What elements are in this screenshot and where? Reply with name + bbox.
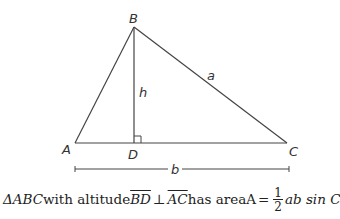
vertex-label-b: B	[129, 11, 138, 26]
caption-has-area: has area	[188, 191, 247, 207]
vertex-label-a: A	[61, 142, 71, 157]
caption-fraction: 1 2	[273, 187, 283, 213]
side-label-b: b	[171, 162, 179, 177]
caption: ΔABC with altitude BD ⊥ AC has area A = …	[0, 186, 330, 212]
vertex-label-c: C	[289, 144, 299, 159]
fraction-numerator: 1	[273, 187, 283, 200]
caption-segment-ac: AC	[168, 191, 188, 207]
vertex-label-d: D	[128, 147, 138, 162]
fraction-denominator: 2	[274, 200, 282, 213]
right-angle-mark	[134, 136, 141, 143]
altitude-label-h: h	[139, 85, 147, 100]
caption-perp-symbol: ⊥	[153, 191, 166, 207]
side-ab	[75, 27, 134, 143]
caption-formula-tail: ab sin C	[285, 191, 340, 207]
caption-segment-bd: BD	[130, 191, 151, 207]
caption-equals: =	[258, 191, 269, 207]
caption-area-var: A	[246, 191, 256, 207]
side-label-a: a	[207, 68, 215, 83]
caption-triangle: ΔABC	[3, 191, 43, 207]
caption-with-altitude: with altitude	[43, 191, 130, 207]
side-bc	[134, 27, 287, 143]
